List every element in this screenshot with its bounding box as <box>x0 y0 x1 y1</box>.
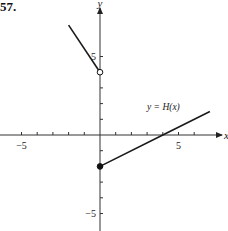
axes <box>0 8 222 231</box>
function-label: y = H(x) <box>146 102 180 113</box>
open-circle-marker <box>97 69 103 75</box>
function-segment <box>69 25 100 72</box>
y-tick-label: −5 <box>85 208 96 219</box>
x-axis-label: x <box>223 129 228 141</box>
y-axis-label: y <box>97 0 103 9</box>
filled-circle-marker <box>97 164 103 170</box>
function-segment <box>100 111 210 166</box>
x-tick-label: 5 <box>176 140 181 151</box>
function-curves <box>69 25 210 166</box>
axis-labels: −555−5xyy = H(x) <box>16 0 228 219</box>
function-graph: −555−5xyy = H(x) <box>0 0 228 231</box>
x-tick-label: −5 <box>16 140 27 151</box>
